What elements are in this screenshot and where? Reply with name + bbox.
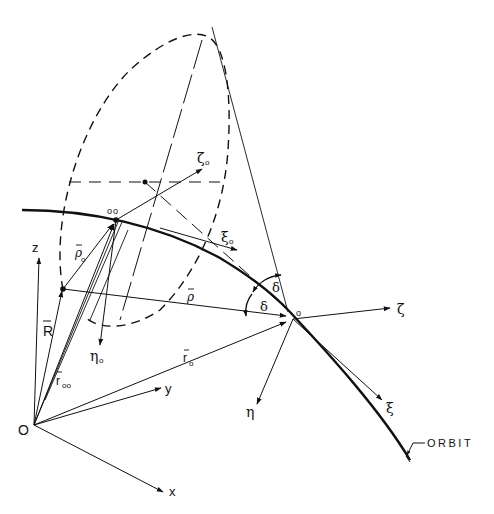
ellipse-center-dot: [143, 180, 148, 185]
cone-tangent-line: [212, 27, 288, 312]
zeta-o-vector: [116, 169, 202, 220]
svg-text:oo: oo: [62, 381, 71, 390]
rho-o-vector: [63, 224, 113, 289]
z-axis: [34, 258, 39, 425]
svg-text:o: o: [81, 255, 86, 264]
y-axis: [34, 388, 161, 425]
r-oo-label: r oo: [56, 372, 71, 390]
svg-text:r: r: [56, 374, 60, 388]
delta-label-upper: δ: [272, 280, 280, 295]
svg-text:r: r: [183, 351, 187, 365]
orbit-geometry-diagram: O z y x R r oo r o ρ o ρ η o ζ o ξ o oo …: [0, 0, 494, 514]
orbit-leader: [407, 443, 425, 455]
xi-label: ξ: [386, 400, 394, 416]
svg-text:o: o: [229, 237, 234, 246]
svg-text:ζ: ζ: [197, 150, 205, 166]
eta-o-label: η o: [90, 348, 104, 365]
xi-vector: [293, 319, 382, 400]
zeta-vector: [293, 308, 390, 319]
y-axis-label: y: [165, 381, 172, 396]
rho-vector: [63, 289, 286, 316]
r-o-label: r o: [183, 350, 194, 368]
delta-label-lower: δ: [260, 299, 268, 314]
R-label: R: [43, 321, 53, 339]
svg-text:o: o: [205, 158, 210, 167]
origin-label: O: [18, 422, 29, 438]
svg-text:η: η: [90, 348, 98, 364]
zeta-o-label: ζ o: [197, 150, 210, 167]
svg-text:o: o: [99, 356, 104, 365]
svg-text:o: o: [189, 359, 194, 368]
point-oo-label: oo: [107, 206, 119, 216]
x-axis: [34, 425, 163, 492]
eta-label: η: [246, 404, 254, 420]
svg-text:R: R: [43, 323, 53, 339]
svg-text:ρ: ρ: [186, 290, 194, 304]
zeta-label: ζ: [397, 301, 405, 317]
R-vector: [34, 291, 62, 425]
delta-arc-inner: [246, 294, 252, 316]
xi-o-label: ξ o: [221, 229, 234, 246]
orbit-label: ORBIT: [427, 437, 473, 449]
x-axis-label: x: [169, 484, 176, 499]
rho-o-label: ρ o: [74, 245, 86, 264]
svg-text:ξ: ξ: [221, 229, 229, 245]
rho-label: ρ: [186, 289, 194, 304]
z-axis-label: z: [32, 240, 39, 255]
cone-axis-line: [120, 40, 202, 320]
point-o-label: o: [296, 308, 301, 318]
